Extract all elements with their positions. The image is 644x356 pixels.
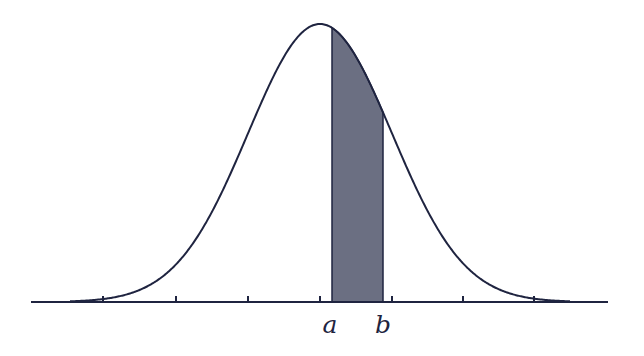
- normal-distribution-diagram: [0, 0, 644, 356]
- shaded-area-a-to-b: [332, 28, 383, 302]
- bell-curve: [70, 24, 570, 301]
- label-a: a: [323, 312, 338, 337]
- label-b: b: [375, 312, 391, 337]
